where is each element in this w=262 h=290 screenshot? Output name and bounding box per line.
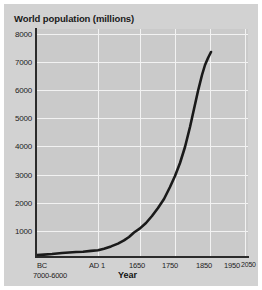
y-tick-label-8000: 8000 [2,30,32,39]
page-title: World population (millions) [14,13,134,24]
x-tick-label-2050: 2050 [241,261,256,268]
x-tick-label-1650: 1650 [129,261,145,270]
y-tick-label-6000: 6000 [2,86,32,95]
y-axis-line [35,28,37,257]
x-tick-label-bc: BC [37,261,47,270]
x-axis-line [35,256,249,258]
y-tick-label-4000: 4000 [2,142,32,151]
y-tick-label-3000: 3000 [2,171,32,180]
x-tick-label-ad1: AD 1 [89,261,105,270]
y-tick-label-5000: 5000 [2,114,32,123]
x-tick-label-1750: 1750 [162,261,178,270]
y-tick-label-1000: 1000 [2,227,32,236]
population-curve [36,29,248,256]
x-tick-label-1850: 1850 [196,261,212,270]
y-tick-label-2000: 2000 [2,199,32,208]
x-tick-label-1950: 1950 [224,261,240,270]
y-tick-label-7000: 7000 [2,58,32,67]
x-axis-title: Year [118,270,137,280]
x-tick-sublabel-bc-range: 7000-6000 [33,271,67,280]
world-population-chart-figure: World population (millions) 1000 2000 30… [0,0,262,290]
